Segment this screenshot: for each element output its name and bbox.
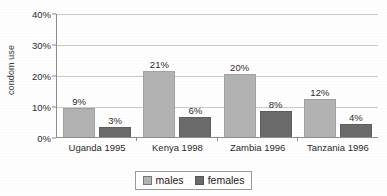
bar-value-label: 20%: [230, 62, 249, 73]
bar-females[interactable]: 6%: [179, 117, 211, 137]
legend-label-females: females: [208, 174, 245, 186]
legend-swatch-males-icon: [143, 176, 152, 185]
bar-value-label: 21%: [150, 59, 169, 70]
bar-slot: 4%: [339, 14, 372, 137]
y-axis-tick-labels: 0%10%20%30%40%: [22, 14, 56, 138]
bar-males[interactable]: 21%: [143, 71, 175, 137]
x-axis-tick-mark: [297, 137, 298, 141]
y-axis-title: condom use: [0, 0, 22, 140]
y-axis-tick-label: 30%: [32, 40, 51, 51]
bar-value-label: 9%: [72, 96, 86, 107]
legend-label-males: males: [156, 174, 184, 186]
bar-slot: 12%: [303, 14, 336, 137]
x-axis-category-label: Uganda 1995: [57, 142, 137, 153]
bar-slot: 6%: [179, 14, 212, 137]
y-axis-tick-label: 20%: [32, 71, 51, 82]
legend-box: males females: [135, 171, 253, 190]
bar-groups: 9%3%21%6%20%8%12%4%: [57, 14, 378, 137]
bar-value-label: 8%: [269, 99, 283, 110]
bar-females[interactable]: 8%: [260, 111, 292, 137]
plot-area: 9%3%21%6%20%8%12%4%: [56, 14, 378, 138]
bar-value-label: 6%: [189, 105, 203, 116]
bar-group: 9%3%: [57, 14, 137, 137]
bar-value-label: 4%: [349, 112, 363, 123]
bar-slot: 20%: [223, 14, 256, 137]
bar-males[interactable]: 20%: [224, 74, 256, 137]
bar-slot: 9%: [63, 14, 96, 137]
y-axis-tick-label: 10%: [32, 102, 51, 113]
bar-females[interactable]: 4%: [340, 124, 372, 137]
bar-slot: 3%: [99, 14, 132, 137]
bar-slot: 8%: [259, 14, 292, 137]
bar-group: 20%8%: [218, 14, 298, 137]
x-axis-category-labels: Uganda 1995Kenya 1998Zambia 1996Tanzania…: [57, 142, 378, 153]
legend-swatch-females-icon: [195, 176, 204, 185]
bar-group: 21%6%: [137, 14, 217, 137]
bar-value-label: 12%: [310, 87, 329, 98]
bar-males[interactable]: 9%: [63, 108, 95, 137]
x-axis-category-label: Zambia 1996: [218, 142, 298, 153]
legend-item-males: males: [143, 174, 184, 186]
bar-group: 12%4%: [298, 14, 378, 137]
bar-males[interactable]: 12%: [304, 99, 336, 137]
y-axis-title-text: condom use: [6, 45, 16, 95]
bar-value-label: 3%: [108, 115, 122, 126]
y-axis-tick-label: 0%: [37, 133, 51, 144]
legend-item-females: females: [195, 174, 245, 186]
bar-females[interactable]: 3%: [99, 127, 131, 137]
y-axis-tick-label: 40%: [32, 9, 51, 20]
x-axis-tick-mark: [217, 137, 218, 141]
bar-slot: 21%: [143, 14, 176, 137]
bar-chart: condom use 0%10%20%30%40% 9%3%21%6%20%8%…: [0, 0, 387, 196]
x-axis-category-label: Tanzania 1996: [298, 142, 378, 153]
x-axis-tick-mark: [136, 137, 137, 141]
legend: males females: [0, 171, 387, 190]
x-axis-category-label: Kenya 1998: [137, 142, 217, 153]
